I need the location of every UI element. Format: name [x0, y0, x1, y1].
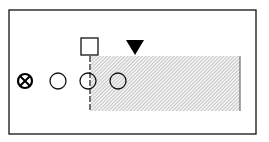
shaded-region [91, 56, 240, 111]
triangle-marker-icon [126, 40, 144, 55]
crossed-circle-icon [18, 74, 32, 88]
open-circle-icon [50, 73, 66, 89]
diagram-canvas [0, 0, 269, 142]
square-marker [81, 38, 98, 55]
